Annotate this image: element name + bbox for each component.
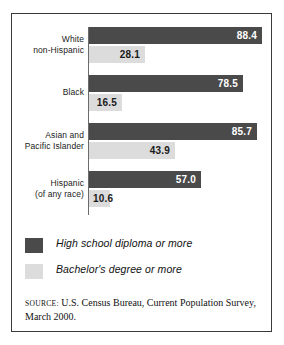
bar-bachelors[interactable]: 16.5	[89, 94, 122, 111]
bar-group: Black 78.5 16.5	[12, 75, 272, 119]
category-label: Asian and Pacific Islander	[11, 130, 84, 151]
bar-group: White non-Hispanic 88.4 28.1	[12, 27, 272, 71]
source-note: SOURCE: U.S. Census Bureau, Current Popu…	[25, 297, 263, 323]
source-text: U.S. Census Bureau, Current Population S…	[25, 297, 256, 322]
bar-value-label: 57.0	[176, 171, 196, 188]
bar-group: Asian and Pacific Islander 85.7 43.9	[12, 123, 272, 167]
bar-value-label: 28.1	[120, 46, 140, 63]
category-label-line1: Black	[63, 87, 84, 97]
bar-high-school[interactable]: 78.5	[89, 75, 243, 92]
category-label: White non-Hispanic	[11, 34, 84, 55]
category-label-line2: Pacific Islander	[25, 141, 84, 151]
bar-value-label: 10.6	[93, 190, 113, 207]
bar-chart-plot-area: White non-Hispanic 88.4 28.1 Black 78.5	[12, 14, 272, 228]
bar-value-label: 78.5	[218, 75, 238, 92]
legend-item-bachelors: Bachelor's degree or more	[12, 262, 272, 288]
legend-swatch-light-icon	[25, 264, 43, 279]
bar-value-label: 43.9	[150, 142, 170, 159]
legend-label: Bachelor's degree or more	[56, 263, 182, 275]
bar-group: Hispanic (of any race) 57.0 10.6	[12, 171, 272, 215]
bar-high-school[interactable]: 85.7	[89, 123, 257, 140]
chart-figure: White non-Hispanic 88.4 28.1 Black 78.5	[11, 13, 272, 332]
bar-high-school[interactable]: 57.0	[89, 171, 201, 188]
category-label: Black	[11, 87, 84, 98]
bar-value-label: 85.7	[232, 123, 252, 140]
legend-swatch-dark-icon	[25, 238, 43, 253]
category-label-line1: Hispanic	[51, 178, 84, 188]
category-label-line1: White	[62, 34, 84, 44]
bar-high-school[interactable]: 88.4	[89, 27, 262, 44]
category-label-line2: non-Hispanic	[33, 45, 84, 55]
chart-legend: High school diploma or more Bachelor's d…	[12, 236, 272, 288]
bar-value-label: 88.4	[237, 27, 257, 44]
bar-bachelors[interactable]: 43.9	[89, 142, 175, 159]
legend-item-high-school: High school diploma or more	[12, 236, 272, 262]
bar-value-label: 16.5	[97, 94, 117, 111]
bar-bachelors[interactable]: 28.1	[89, 46, 145, 63]
legend-label: High school diploma or more	[56, 237, 192, 249]
bar-bachelors[interactable]: 10.6	[89, 190, 110, 207]
category-label: Hispanic (of any race)	[11, 178, 84, 199]
source-prefix: SOURCE:	[25, 299, 59, 308]
category-label-line1: Asian and	[45, 130, 84, 140]
category-label-line2: (of any race)	[35, 189, 84, 199]
